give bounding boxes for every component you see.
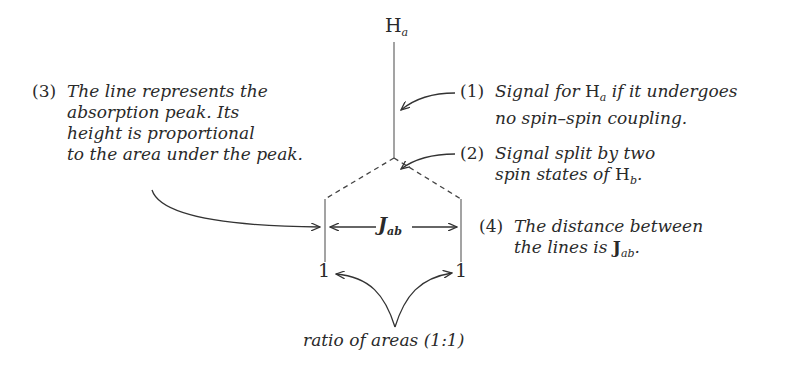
- ha-label: Ha: [385, 14, 408, 39]
- ratio-arrow-right: [395, 273, 452, 327]
- ratio-arrow-left: [336, 274, 395, 327]
- arrow-1: [401, 93, 455, 110]
- jab-label: Jab: [378, 213, 402, 238]
- annotation-4: (4)The distance between the lines is Jab…: [479, 216, 703, 264]
- split-dashed-right: [394, 158, 461, 199]
- arrow-3: [152, 190, 320, 227]
- annotation-4-number: (4): [479, 216, 514, 237]
- annotation-2-number: (2): [460, 143, 495, 164]
- peak-label-right: 1: [455, 259, 467, 281]
- split-dashed-left: [325, 158, 394, 199]
- ratio-caption: ratio of areas (1:1): [303, 330, 464, 351]
- annotation-3-number: (3): [32, 81, 67, 102]
- annotation-1-number: (1): [460, 81, 495, 108]
- annotation-3: (3)The line represents the absorption pe…: [32, 81, 303, 165]
- splitting-tree-diagram: [0, 0, 801, 365]
- peak-label-left: 1: [318, 259, 330, 281]
- arrow-2: [401, 154, 455, 169]
- annotation-1: (1)Signal for Ha if it undergoes no spin…: [460, 81, 737, 129]
- annotation-2: (2)Signal split by two spin states of Hb…: [460, 143, 655, 191]
